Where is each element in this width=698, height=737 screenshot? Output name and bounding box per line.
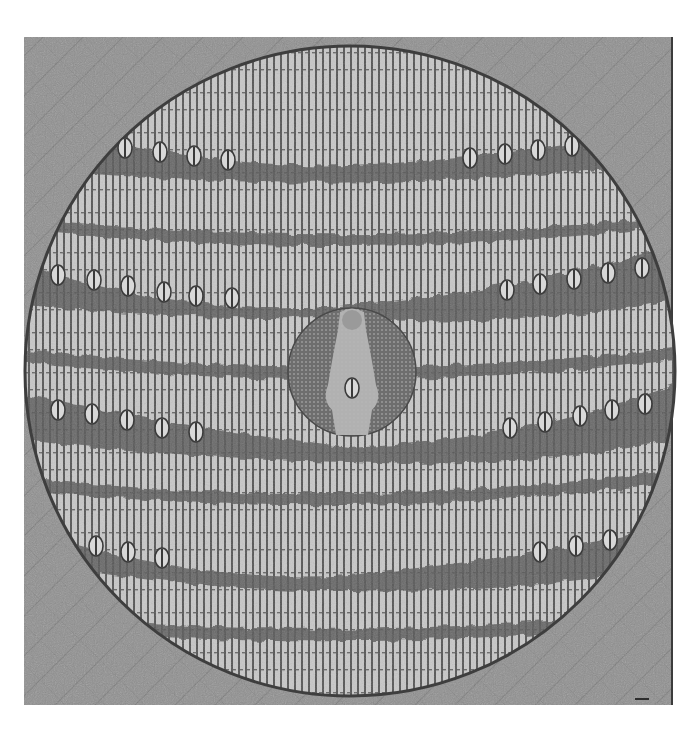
center-medallion bbox=[288, 308, 416, 436]
signature-mark bbox=[635, 698, 649, 700]
artwork-photo bbox=[0, 0, 698, 737]
